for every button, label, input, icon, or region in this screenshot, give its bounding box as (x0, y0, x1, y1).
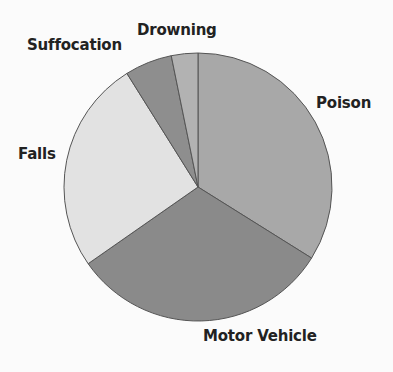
label-motor-vehicle: Motor Vehicle (203, 329, 317, 344)
label-drowning: Drowning (137, 23, 217, 38)
pie-chart-plot (0, 0, 393, 372)
label-poison: Poison (316, 96, 371, 111)
label-suffocation: Suffocation (27, 38, 122, 53)
label-falls: Falls (18, 147, 56, 162)
pie-chart: Poison Motor Vehicle Falls Suffocation D… (0, 0, 393, 372)
